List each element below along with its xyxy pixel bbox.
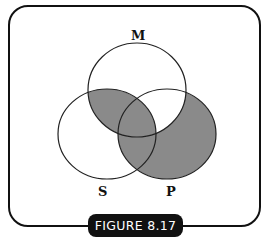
label-m: M: [131, 28, 145, 43]
label-p: P: [166, 184, 176, 199]
figure-caption-badge: FIGURE 8.17: [88, 214, 183, 237]
label-s: S: [98, 184, 107, 199]
